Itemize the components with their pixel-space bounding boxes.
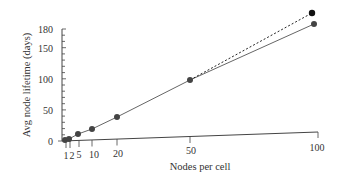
- series-extrapolated-line: [190, 13, 312, 80]
- x-tick-50: 50: [186, 145, 196, 156]
- x-axis-label: Nodes per cell: [170, 161, 231, 172]
- y-tick-0: 0: [48, 136, 53, 147]
- x-tick-2: 2: [70, 150, 75, 161]
- y-axis-label: Avg node lifetime (days): [21, 32, 33, 137]
- y-tick-180: 180: [38, 24, 53, 35]
- series-extrapolated-point: [309, 10, 315, 16]
- chart: 180 150 100 50 0 Avg node lifetime (days…: [0, 0, 339, 190]
- y-tick-50: 50: [43, 105, 53, 116]
- x-tick-5: 5: [77, 149, 82, 160]
- x-tick-20: 20: [113, 148, 123, 159]
- y-tick-150: 150: [38, 43, 53, 54]
- y-tick-100: 100: [38, 74, 53, 85]
- x-tick-100: 100: [310, 142, 325, 153]
- x-tick-1: 1: [64, 150, 69, 161]
- x-tick-10: 10: [89, 149, 99, 160]
